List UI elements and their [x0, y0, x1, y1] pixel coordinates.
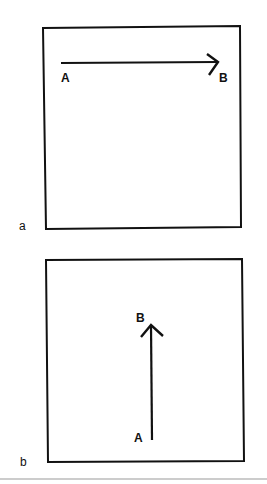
panel-a-start-label: A — [61, 71, 70, 85]
panel-b-frame — [46, 259, 244, 462]
panel-b: B A b — [20, 259, 244, 469]
panel-a-arrow-shaft — [61, 62, 217, 63]
figure: A B a B A b — [0, 0, 267, 484]
panel-b-label: b — [20, 455, 27, 469]
panel-a-arrowhead-icon — [207, 54, 218, 75]
panel-a-end-label: B — [219, 71, 228, 85]
panel-b-start-label: A — [134, 431, 143, 445]
panel-b-end-label: B — [136, 311, 145, 325]
panel-a-label: a — [19, 219, 26, 233]
panel-b-arrow-shaft — [151, 325, 152, 440]
panel-a: A B a — [19, 26, 241, 233]
